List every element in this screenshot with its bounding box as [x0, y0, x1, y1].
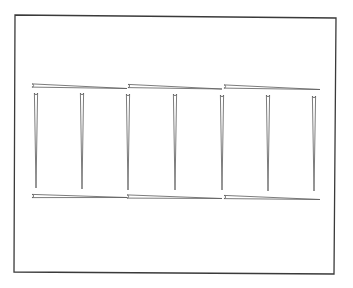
- vertical-needle: [126, 94, 129, 190]
- vertical-needle: [266, 95, 269, 191]
- vertical-needle: [34, 93, 37, 188]
- horizontal-needle-bottom: [224, 195, 320, 199]
- vertical-needle: [173, 94, 176, 190]
- horizontal-needle-top: [224, 85, 320, 90]
- vertical-needle-row: [34, 93, 315, 191]
- vertical-needle: [220, 95, 223, 190]
- horizontal-needle-bottom: [32, 194, 127, 197]
- horizontal-needle-bottom: [127, 195, 222, 199]
- bottom-horizontal-needle-row: [32, 194, 320, 199]
- top-horizontal-needle-row: [32, 84, 320, 90]
- diagram-canvas: [0, 0, 353, 288]
- horizontal-needle-top: [32, 84, 127, 89]
- horizontal-needle-top: [128, 84, 222, 89]
- vertical-needle: [80, 93, 83, 189]
- vertical-needle: [312, 96, 315, 191]
